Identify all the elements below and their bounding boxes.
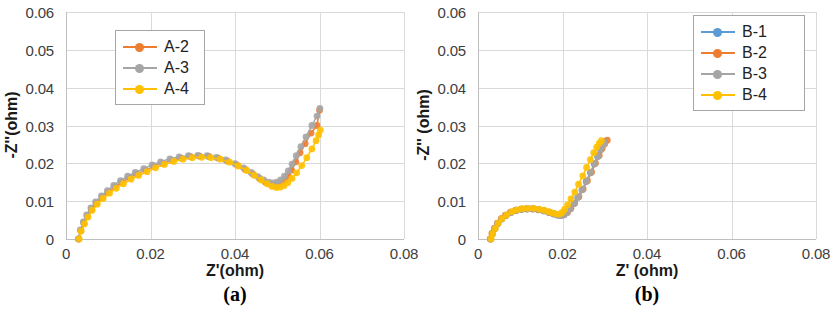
y-tick-label: 0.06 [0, 4, 60, 21]
legend-marker-icon [123, 41, 157, 53]
legend-item-b-2[interactable]: B-2 [701, 42, 795, 63]
legend-item-a-4[interactable]: A-4 [123, 78, 195, 99]
legend-label: B-4 [742, 87, 767, 103]
chart-panel-b: 00.010.020.030.040.050.0600.020.040.060.… [413, 0, 827, 310]
legend-label: B-3 [742, 66, 767, 82]
legend-marker-icon [701, 89, 735, 101]
x-axis-title: Z' (ohm) [478, 262, 816, 280]
panel-caption-a: (a) [66, 283, 404, 306]
x-tick-label: 0.04 [221, 245, 249, 262]
y-tick-label: 0.06 [413, 4, 472, 21]
legend-label: B-1 [742, 24, 767, 40]
x-tick-label: 0 [474, 245, 482, 262]
y-tick-label: 0.01 [413, 193, 472, 210]
x-tick-label: 0 [62, 245, 70, 262]
series-B-4 [488, 137, 605, 242]
y-axis-title: -Z''(ohm) [3, 91, 21, 158]
series-A-3 [75, 105, 323, 242]
legend-marker-icon [701, 68, 735, 80]
chart-panel-a: 00.010.020.030.040.050.0600.020.040.060.… [0, 0, 414, 310]
y-tick-label: 0.05 [0, 41, 60, 58]
legend-a: A-2A-3A-4 [115, 30, 205, 105]
legend-marker-icon [123, 83, 157, 95]
legend-marker-icon [701, 47, 735, 59]
legend-label: B-2 [742, 45, 767, 61]
legend-item-b-1[interactable]: B-1 [701, 21, 795, 42]
series-B-1 [487, 138, 608, 242]
legend-marker-icon [701, 26, 735, 38]
x-tick-label: 0.02 [136, 245, 164, 262]
y-tick-label: 0.01 [0, 193, 60, 210]
legend-b: B-1B-2B-3B-4 [693, 15, 805, 111]
gridline-vertical [816, 12, 817, 239]
panel-caption-b: (b) [478, 283, 816, 306]
x-tick-label: 0.02 [548, 245, 576, 262]
legend-item-a-2[interactable]: A-2 [123, 36, 195, 57]
y-tick-label: 0 [0, 231, 60, 248]
legend-marker-icon [123, 62, 157, 74]
gridline-vertical [404, 12, 405, 239]
y-axis-title: -Z'' (ohm) [415, 89, 433, 161]
y-tick-label: 0.05 [413, 41, 472, 58]
x-tick-label: 0.08 [802, 245, 830, 262]
gridline-horizontal [478, 239, 816, 240]
x-tick-label: 0.06 [305, 245, 333, 262]
legend-label: A-3 [164, 60, 189, 76]
gridline-horizontal [66, 239, 404, 240]
x-tick-label: 0.04 [633, 245, 661, 262]
legend-item-b-3[interactable]: B-3 [701, 63, 795, 84]
legend-label: A-4 [164, 81, 189, 97]
x-tick-label: 0.06 [717, 245, 745, 262]
legend-item-b-4[interactable]: B-4 [701, 84, 795, 105]
legend-label: A-2 [164, 39, 189, 55]
series-B-3 [487, 139, 608, 243]
x-axis-title: Z'(ohm) [66, 262, 404, 280]
legend-item-a-3[interactable]: A-3 [123, 57, 195, 78]
y-tick-label: 0 [413, 231, 472, 248]
